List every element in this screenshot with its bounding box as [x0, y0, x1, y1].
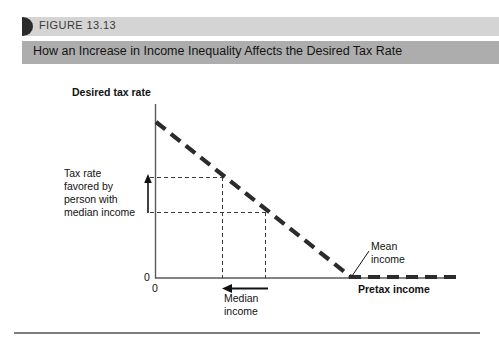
series-desired-tax-rate-line — [156, 122, 351, 277]
tax-rate-note-line-1: Tax rate — [64, 167, 135, 180]
mean-income-line-2: income — [371, 253, 405, 266]
median-income-line-2: income — [224, 305, 258, 318]
tax-rate-note-annotation: Tax rate favored by person with median i… — [64, 167, 135, 219]
x-axis-origin-tick-label: 0 — [152, 282, 158, 295]
x-axis-label: Pretax income — [358, 283, 430, 296]
y-axis-origin-tick-label: 0 — [144, 271, 150, 284]
mean-income-leader-line — [352, 251, 369, 276]
tax-rate-note-line-2: favored by — [64, 180, 135, 193]
mean-income-line-1: Mean — [371, 240, 405, 253]
up-arrow-icon — [144, 174, 152, 213]
y-axis-label: Desired tax rate — [72, 86, 151, 99]
tax-rate-note-line-4: median income — [64, 206, 135, 219]
median-income-annotation: Median income — [224, 292, 258, 318]
mean-income-annotation: Mean income — [371, 240, 405, 266]
tax-rate-note-line-3: person with — [64, 193, 135, 206]
median-income-line-1: Median — [224, 292, 258, 305]
